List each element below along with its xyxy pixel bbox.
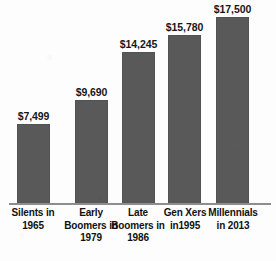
bar[interactable] [168,35,201,204]
category-line: 1986 [107,232,169,245]
x-axis-category-label: Millennials in 2013 [202,207,264,232]
category-line: in 2013 [202,220,264,233]
bar-group[interactable]: $7,499 [17,124,50,204]
bar-group[interactable]: $17,500 [216,17,249,204]
bar-value-label: $7,499 [18,110,50,122]
bar[interactable] [122,52,155,204]
category-line: Silents in [2,207,64,220]
bar-value-label: $15,780 [166,21,203,33]
bar-value-label: $17,500 [214,3,251,15]
bar-value-label: $14,245 [120,38,157,50]
bar-group[interactable]: $14,245 [122,52,155,204]
bar-chart: $7,499 $9,690 $14,245 $15,780 $17,500 Si… [0,0,276,261]
category-line: 1965 [2,220,64,233]
x-axis-category-label: Silents in 1965 [2,207,64,232]
bar[interactable] [17,124,50,204]
x-axis-labels: Silents in 1965 Early Boomers in 1979 La… [0,207,276,261]
bar-group[interactable]: $15,780 [168,35,201,204]
plot-area: $7,499 $9,690 $14,245 $15,780 $17,500 [0,0,276,204]
bar[interactable] [216,17,249,204]
category-line: Millennials [202,207,264,220]
x-axis-baseline [9,203,271,205]
bar[interactable] [75,100,108,204]
bar-group[interactable]: $9,690 [75,100,108,204]
bar-value-label: $9,690 [76,86,108,98]
